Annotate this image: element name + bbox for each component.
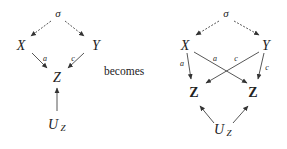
- right-edge-label-c-cross: c: [234, 54, 238, 63]
- left-edge-sigma-y: [65, 21, 84, 36]
- left-diagram: σ X Y Z U Z a c: [16, 7, 102, 133]
- svg-text:U: U: [48, 117, 59, 132]
- right-edge-x-zright: [194, 52, 247, 83]
- right-node-x: X: [180, 38, 190, 53]
- right-edge-y-zright: [258, 53, 264, 79]
- right-edge-label-c-outer: c: [265, 63, 269, 72]
- svg-text:Z: Z: [226, 128, 232, 138]
- left-node-sigma: σ: [55, 7, 61, 19]
- right-node-y: Y: [262, 38, 272, 53]
- right-edge-uz-zright: [233, 106, 248, 123]
- left-node-uz: U Z: [48, 117, 67, 133]
- right-edge-x-zleft: [187, 53, 191, 79]
- left-node-x: X: [16, 38, 26, 53]
- right-edge-uz-zleft: [200, 106, 214, 123]
- right-node-sigma: σ: [223, 7, 229, 19]
- right-edge-sigma-y: [234, 21, 259, 35]
- right-edge-label-a-outer: a: [180, 59, 184, 68]
- right-node-uz: U Z: [214, 122, 233, 138]
- left-edge-sigma-x: [31, 21, 51, 36]
- becomes-label: becomes: [104, 65, 145, 77]
- left-node-z: Z: [53, 70, 61, 85]
- svg-text:Z: Z: [60, 123, 66, 133]
- left-edge-label-a: a: [43, 54, 47, 63]
- right-diagram: σ X Y Z Z U Z a a c c: [180, 7, 272, 138]
- causal-diagram-figure: σ X Y Z U Z a c becomes σ X Y Z Z U Z: [0, 0, 287, 149]
- svg-text:U: U: [214, 122, 225, 137]
- right-edge-sigma-x: [196, 21, 219, 35]
- right-edge-label-a-cross: a: [213, 54, 217, 63]
- right-node-z-right: Z: [248, 85, 257, 100]
- right-node-z-left: Z: [189, 85, 198, 100]
- left-node-y: Y: [92, 38, 102, 53]
- left-edge-label-c: c: [71, 54, 75, 63]
